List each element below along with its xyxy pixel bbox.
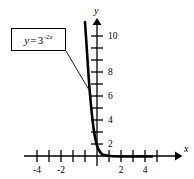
y-tick-label-4: 4 (108, 115, 113, 125)
y-tick-label-10: 10 (108, 31, 118, 41)
x-axis-arrow-icon (175, 152, 183, 161)
x-tick-label-neg2: -2 (57, 165, 65, 175)
x-tick-label-4: 4 (143, 165, 148, 175)
annotation-leader-line (66, 51, 89, 89)
y-tick-label-8: 8 (108, 67, 113, 77)
y-axis-arrow-icon (93, 18, 102, 25)
y-axis-name: y (93, 5, 99, 16)
equation-annotation-box: y=3-2x (11, 28, 66, 51)
y-tick-label-6: 6 (108, 91, 113, 101)
y-tick-label-2: 2 (108, 139, 113, 149)
x-tick-label-2: 2 (119, 165, 124, 175)
curve-y-equals-3-pow-neg2x (85, 22, 152, 157)
graph-canvas: -4 -2 2 4 2 4 6 8 10 x y (0, 0, 194, 179)
x-axis-name: x (183, 143, 189, 154)
equation-equals-sign: = (29, 34, 37, 46)
equation-exponent: -2x (43, 33, 53, 41)
exponential-decay-graph-figure: -4 -2 2 4 2 4 6 8 10 x y y=3-2x (0, 0, 194, 179)
x-tick-label-neg4: -4 (33, 165, 41, 175)
equation-text: y=3-2x (24, 34, 53, 46)
